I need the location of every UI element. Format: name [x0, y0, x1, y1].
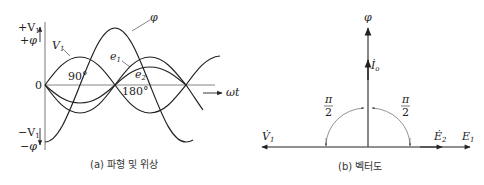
caption-a: (a) 파형 및 위상 [90, 158, 158, 170]
angle-180-label: 180° [122, 85, 149, 98]
waveform-diagram: +V1 +φ −V1 −φ 0 ωt 90° 180° φ V1 e1 e2 (… [18, 11, 240, 170]
phi-leader [132, 20, 150, 31]
v1-label: V1 [52, 39, 64, 53]
caption-b: (b) 벡터도 [338, 161, 382, 172]
right-angle-den: 2 [402, 106, 409, 119]
figure: +V1 +φ −V1 −φ 0 ωt 90° 180° φ V1 e1 e2 (… [0, 0, 484, 185]
plus-phi-label: +φ [20, 34, 37, 47]
left-angle-num: π [324, 93, 333, 106]
v1-vector-label: V̇1 [262, 130, 274, 144]
e2-label: e2 [135, 68, 147, 82]
angle-90-label: 90° [68, 70, 88, 83]
e1-leader [122, 61, 130, 67]
e1-vector-label: E1 [461, 130, 475, 144]
right-angle-num: π [401, 93, 410, 106]
origin-label: 0 [35, 79, 42, 92]
left-angle-den: 2 [325, 106, 332, 119]
minus-phi-label: −φ [20, 140, 37, 153]
svg-text:−V1: −V1 [18, 126, 40, 140]
io-label: İo [370, 58, 380, 73]
vector-diagram: φ İo V̇1 Ė2 E1 π 2 π 2 (b) 벡터도 [262, 11, 475, 172]
wt-label: ωt [226, 86, 240, 99]
svg-text:+V1: +V1 [18, 21, 40, 35]
e2-vector-label: Ė2 [433, 129, 447, 144]
phi-vector-label: φ [364, 11, 372, 24]
phi-label: φ [150, 11, 158, 24]
e1-label: e1 [110, 50, 121, 64]
